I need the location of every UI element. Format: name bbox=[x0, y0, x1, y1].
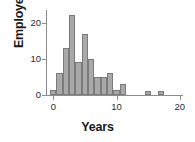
y-tick-label: 10 bbox=[19, 54, 41, 63]
y-tick-mark bbox=[42, 95, 46, 96]
histogram-bar bbox=[158, 91, 164, 95]
x-tick-mark bbox=[53, 96, 54, 100]
y-tick-label: 0 bbox=[19, 90, 41, 99]
histogram-bar bbox=[145, 91, 151, 95]
plot-area bbox=[47, 10, 183, 95]
y-tick-mark bbox=[42, 23, 46, 24]
x-tick-label: 10 bbox=[107, 102, 127, 112]
x-tick-mark bbox=[180, 96, 181, 100]
y-axis-title: Employees bbox=[12, 0, 28, 62]
x-axis-line bbox=[46, 95, 183, 96]
y-tick-label: 20 bbox=[19, 18, 41, 27]
histogram-chart: Employees 01020 01020 Years bbox=[0, 0, 195, 142]
x-tick-label: 20 bbox=[170, 102, 190, 112]
x-tick-label: 0 bbox=[43, 102, 63, 112]
histogram-bar bbox=[120, 84, 126, 95]
y-tick-mark bbox=[42, 59, 46, 60]
x-tick-mark bbox=[117, 96, 118, 100]
x-axis-title: Years bbox=[0, 120, 195, 134]
